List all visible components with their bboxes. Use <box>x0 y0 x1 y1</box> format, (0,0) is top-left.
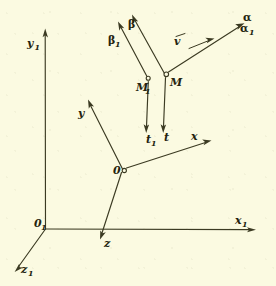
vector-t1-label-sub: 1 <box>151 138 157 148</box>
fixed-frame-group <box>15 29 256 273</box>
origin-O1-label-sub: 1 <box>41 222 47 232</box>
vector-alpha1-label-sub: 1 <box>249 27 255 37</box>
z1-axis-label-sub: 1 <box>28 268 34 278</box>
points-and-vectors-group <box>118 15 245 134</box>
z1-axis <box>15 229 46 272</box>
point-M-label: M <box>169 76 183 89</box>
x1-axis <box>46 227 257 232</box>
moving-frame-group <box>88 100 212 240</box>
diagram-canvas: y 1 x 1 z 1 0 1 y x z 0 M 1 M <box>0 0 276 286</box>
vector-alpha1-label: α <box>240 22 249 35</box>
y-axis-label: y <box>77 107 86 120</box>
vector-t-line <box>161 78 167 134</box>
origin-O-node <box>122 168 126 172</box>
point-M1-node <box>146 76 150 80</box>
vector-v-label: v <box>174 35 181 48</box>
z1-axis-label: z <box>20 263 28 276</box>
y1-axis-label-sub: 1 <box>35 42 41 52</box>
vector-diagram-svg: y 1 x 1 z 1 0 1 y x z 0 M 1 M <box>0 0 276 286</box>
point-M1-label-sub: 1 <box>145 86 151 96</box>
point-M-node <box>164 72 169 77</box>
y1-axis <box>43 29 48 230</box>
vector-t-label: t <box>164 131 169 144</box>
vector-v-arrow <box>189 38 215 49</box>
y-axis <box>88 100 123 170</box>
vector-beta-line <box>132 15 165 74</box>
origin-O-label: 0 <box>113 164 121 177</box>
vector-beta1-label-sub: 1 <box>115 39 121 49</box>
z-axis-label: z <box>103 237 111 250</box>
vector-beta-label: β <box>128 18 135 31</box>
x1-axis-label-sub: 1 <box>242 219 248 229</box>
labels-group: y 1 x 1 z 1 0 1 y x z 0 M 1 M <box>20 11 255 278</box>
x1-axis-label: x <box>234 214 242 227</box>
x-axis-label: x <box>190 130 198 143</box>
